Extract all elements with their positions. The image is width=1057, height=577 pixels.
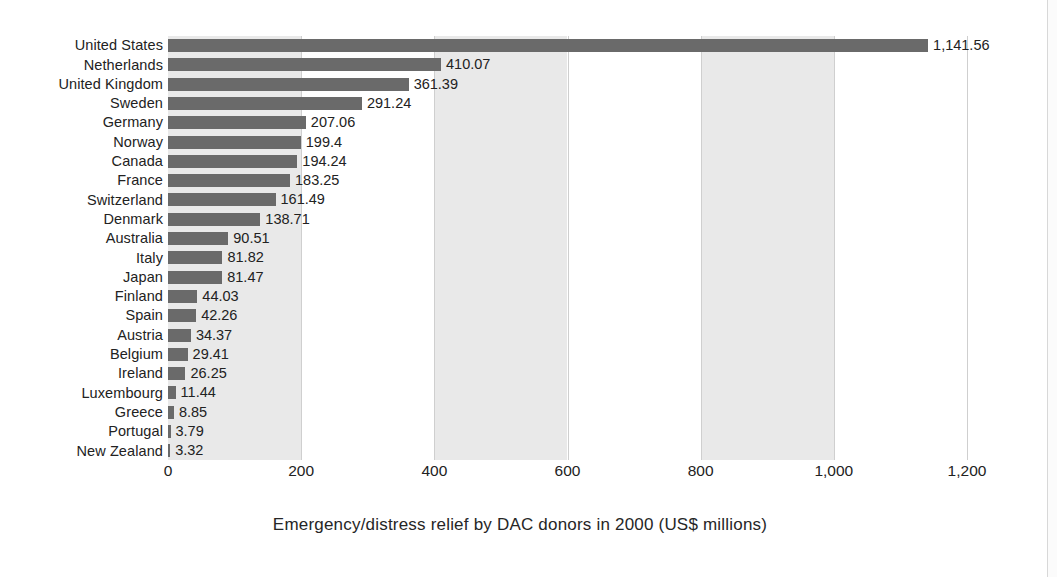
bar-group: 34.37 — [168, 329, 232, 342]
x-tick-label: 800 — [688, 462, 714, 480]
bar-value-label: 3.79 — [176, 424, 204, 439]
bar[interactable] — [168, 116, 306, 129]
category-label: Canada — [0, 154, 163, 169]
bar-value-label: 42.26 — [201, 308, 237, 323]
bar[interactable] — [168, 367, 185, 380]
category-label: France — [0, 173, 163, 188]
chart-row[interactable]: Austria34.37 — [0, 326, 1057, 346]
bar[interactable] — [168, 174, 290, 187]
bar-group: 183.25 — [168, 174, 339, 187]
chart-row[interactable]: Netherlands410.07 — [0, 55, 1057, 75]
bar[interactable] — [168, 39, 928, 52]
category-label: Germany — [0, 115, 163, 130]
bar[interactable] — [168, 251, 222, 264]
category-label: Ireland — [0, 366, 163, 381]
bar[interactable] — [168, 406, 174, 419]
category-label: Austria — [0, 328, 163, 343]
bar-value-label: 29.41 — [193, 347, 229, 362]
bar[interactable] — [168, 425, 171, 438]
chart-row[interactable]: Germany207.06 — [0, 113, 1057, 133]
bar[interactable] — [168, 271, 222, 284]
bar-group: 207.06 — [168, 116, 355, 129]
bar-group: 8.85 — [168, 406, 207, 419]
x-tick-label: 400 — [421, 462, 447, 480]
category-label: United States — [0, 38, 163, 53]
bar-group: 199.4 — [168, 136, 342, 149]
category-label: Sweden — [0, 96, 163, 111]
bar-group: 1,141.56 — [168, 39, 990, 52]
bar[interactable] — [168, 309, 196, 322]
category-label: United Kingdom — [0, 77, 163, 92]
bar[interactable] — [168, 136, 301, 149]
bar-group: 29.41 — [168, 348, 229, 361]
page-canvas: United States1,141.56Netherlands410.07Un… — [0, 0, 1057, 577]
bar[interactable] — [168, 97, 362, 110]
bar-group: 138.71 — [168, 213, 310, 226]
bar[interactable] — [168, 329, 191, 342]
chart-rows: United States1,141.56Netherlands410.07Un… — [0, 36, 1057, 460]
chart-row[interactable]: Canada194.24 — [0, 152, 1057, 172]
chart-row[interactable]: Spain42.26 — [0, 306, 1057, 326]
chart-row[interactable]: Finland44.03 — [0, 287, 1057, 307]
chart-row[interactable]: Switzerland161.49 — [0, 190, 1057, 210]
category-label: Denmark — [0, 212, 163, 227]
bar-group: 81.82 — [168, 251, 264, 264]
bar-chart: United States1,141.56Netherlands410.07Un… — [0, 0, 1057, 577]
bar-value-label: 90.51 — [233, 231, 269, 246]
bar[interactable] — [168, 155, 297, 168]
bar[interactable] — [168, 290, 197, 303]
page-edge-line — [1047, 0, 1048, 577]
bar-value-label: 81.82 — [227, 250, 263, 265]
chart-row[interactable]: Belgium29.41 — [0, 345, 1057, 365]
chart-row[interactable]: Portugal3.79 — [0, 422, 1057, 442]
chart-row[interactable]: Sweden291.24 — [0, 94, 1057, 114]
category-label: Belgium — [0, 347, 163, 362]
chart-row[interactable]: Italy81.82 — [0, 248, 1057, 268]
bar-value-label: 207.06 — [311, 115, 355, 130]
bar-value-label: 161.49 — [281, 192, 325, 207]
bar-value-label: 410.07 — [446, 57, 490, 72]
bar[interactable] — [168, 444, 170, 457]
bar-group: 42.26 — [168, 309, 237, 322]
bar-group: 26.25 — [168, 367, 227, 380]
chart-row[interactable]: Denmark138.71 — [0, 210, 1057, 230]
category-label: Finland — [0, 289, 163, 304]
bar[interactable] — [168, 232, 228, 245]
chart-row[interactable]: Greece8.85 — [0, 403, 1057, 423]
bar-group: 3.32 — [168, 444, 203, 457]
bar[interactable] — [168, 78, 409, 91]
bar-value-label: 44.03 — [202, 289, 238, 304]
chart-row[interactable]: Luxembourg11.44 — [0, 383, 1057, 403]
chart-row[interactable]: Ireland26.25 — [0, 364, 1057, 384]
chart-row[interactable]: France183.25 — [0, 171, 1057, 191]
chart-row[interactable]: United Kingdom361.39 — [0, 75, 1057, 95]
bar[interactable] — [168, 193, 276, 206]
bar-group: 44.03 — [168, 290, 239, 303]
category-label: Spain — [0, 308, 163, 323]
x-tick-label: 1,200 — [948, 462, 987, 480]
bar[interactable] — [168, 386, 176, 399]
bar[interactable] — [168, 58, 441, 71]
bar-value-label: 183.25 — [295, 173, 339, 188]
chart-row[interactable]: Japan81.47 — [0, 268, 1057, 288]
chart-row[interactable]: United States1,141.56 — [0, 36, 1057, 56]
bar[interactable] — [168, 213, 260, 226]
chart-row[interactable]: New Zealand3.32 — [0, 441, 1057, 461]
chart-row[interactable]: Norway199.4 — [0, 133, 1057, 153]
category-label: Switzerland — [0, 193, 163, 208]
chart-row[interactable]: Australia90.51 — [0, 229, 1057, 249]
x-axis: 02004006008001,0001,200 — [168, 462, 967, 492]
category-label: Italy — [0, 251, 163, 266]
bar-value-label: 34.37 — [196, 328, 232, 343]
category-label: Luxembourg — [0, 386, 163, 401]
category-label: Norway — [0, 135, 163, 150]
bar-group: 194.24 — [168, 155, 347, 168]
bar-group: 81.47 — [168, 271, 264, 284]
bar[interactable] — [168, 348, 188, 361]
bar-group: 90.51 — [168, 232, 270, 245]
page-edge-shade — [1048, 0, 1057, 577]
bar-value-label: 194.24 — [302, 154, 346, 169]
bar-group: 291.24 — [168, 97, 411, 110]
bar-value-label: 138.71 — [265, 212, 309, 227]
bar-group: 11.44 — [168, 386, 216, 399]
